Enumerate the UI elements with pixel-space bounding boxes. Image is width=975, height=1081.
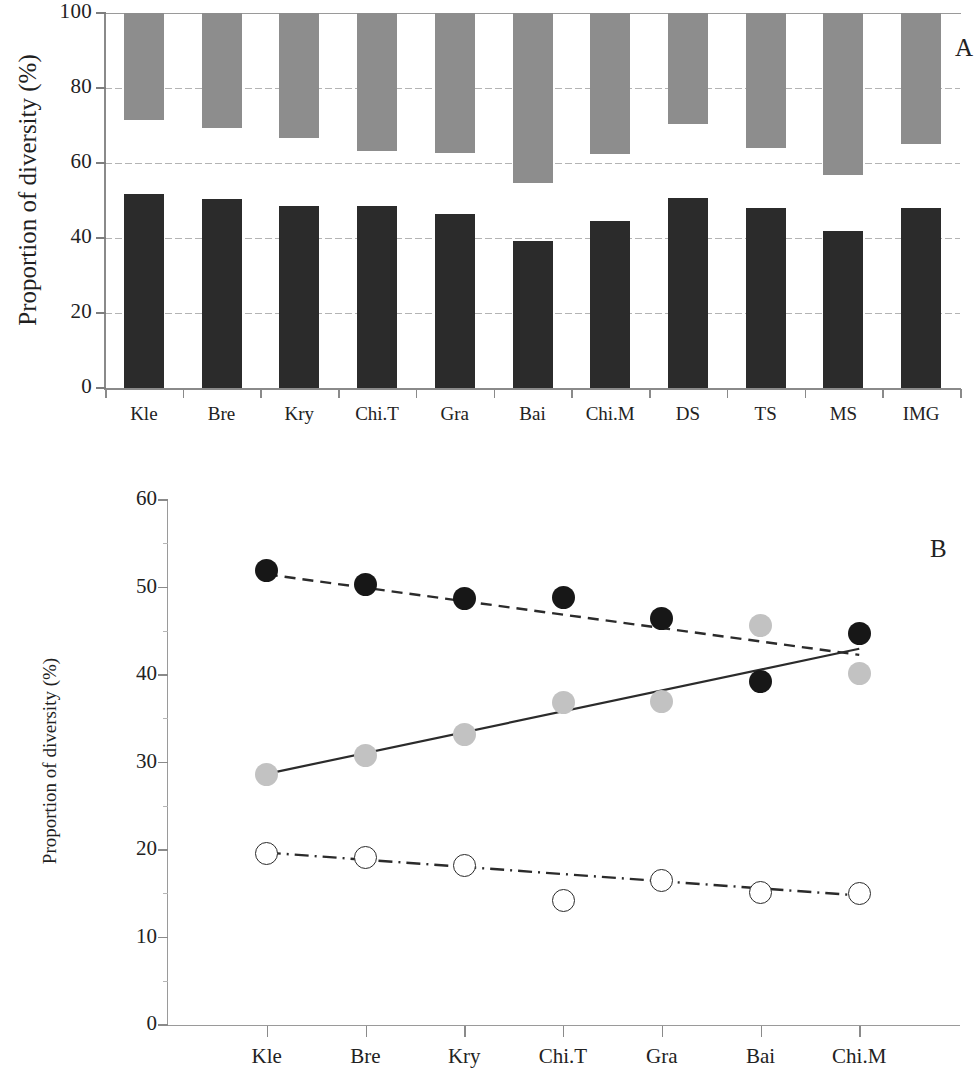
panel-b-data-point [552,889,575,912]
panel-b-y-minor-tick [163,631,168,632]
panel-b-y-axis-title: Proportion of diversity (%) [39,561,61,961]
panel-b-data-point [749,614,772,637]
panel-a-category-label: Chi.M [571,403,649,425]
panel-b-data-point [749,670,772,693]
panel-b-data-point [848,882,871,905]
panel-a-y-axis-line [104,13,106,389]
panel-a-x-tick [649,389,651,398]
panel-a-category-label: Kry [260,403,338,425]
panel-b-data-point [552,691,575,714]
panel-b-y-minor-tick [163,806,168,807]
panel-b-x-tick [366,1026,367,1037]
panel-b-y-minor-tick [163,718,168,719]
panel-a-bar-dark [357,206,397,388]
panel-a-y-tick [96,87,106,89]
panel-b-data-point [453,587,476,610]
panel-a-y-tick-label: 0 [22,374,92,399]
panel-a-bar-dark [435,214,475,388]
panel-a-bar-light [513,13,553,183]
panel-a-y-tick-label: 20 [22,299,92,324]
panel-a-bar-dark [513,241,553,388]
panel-a-bar-chart: Proportion of diversity (%) 020406080100… [0,0,975,450]
panel-b-data-point [749,881,772,904]
panel-b-y-tick-label: 40 [97,661,157,686]
panel-b-data-point [552,586,575,609]
panel-b-y-tick [158,937,168,938]
panel-b-category-label: Kle [217,1044,316,1069]
panel-a-category-label: Bai [494,403,572,425]
panel-b-y-tick-label: 50 [97,574,157,599]
panel-b-y-minor-tick [163,893,168,894]
panel-a-category-label: IMG [882,403,960,425]
panel-b-y-tick-label: 20 [97,836,157,861]
panel-b-data-point [848,622,871,645]
panel-b-x-tick [662,1026,663,1037]
panel-b-data-point [848,662,871,685]
panel-b-category-label: Bai [711,1044,810,1069]
panel-a-x-tick [960,389,962,398]
panel-a-x-tick [805,389,807,398]
panel-a-x-tick [338,389,340,398]
panel-a-category-label: MS [805,403,883,425]
panel-a-category-label: Bre [183,403,261,425]
panel-a-category-label: DS [649,403,727,425]
panel-b-x-tick [464,1026,465,1037]
panel-b-y-tick [158,674,168,675]
panel-a-bar-light [124,13,164,120]
panel-a-x-tick [105,389,107,398]
panel-a-y-tick [96,12,106,14]
panel-b-data-point [255,559,278,582]
panel-a-x-axis-line [104,388,961,390]
panel-a-bar-light [823,13,863,175]
panel-a-y-tick [96,237,106,239]
panel-a-bar-dark [668,198,708,389]
panel-b-scatter-chart: Proportion of diversity (%) 010203040506… [0,450,975,1081]
panel-a-bar-dark [823,231,863,389]
panel-a-bar-light [668,13,708,124]
panel-a-bar-dark [590,221,630,388]
panel-b-y-tick-label: 10 [97,924,157,949]
panel-a-bar-dark [901,208,941,388]
panel-a-y-tick-label: 60 [22,149,92,174]
panel-b-category-label: Kry [415,1044,514,1069]
panel-a-x-tick [416,389,418,398]
panel-a-bar-dark [746,208,786,388]
panel-b-x-tick [563,1026,564,1037]
panel-b-y-tick [158,849,168,850]
panel-b-category-label: Chi.M [810,1044,909,1069]
panel-a-label: A [955,34,973,62]
panel-b-y-tick [158,587,168,588]
panel-a-bar-dark [202,199,242,388]
panel-b-data-point [453,723,476,746]
panel-a-bar-light [901,13,941,144]
panel-a-category-label: Gra [416,403,494,425]
panel-a-bar-light [279,13,319,138]
panel-b-x-tick [859,1026,860,1037]
panel-b-x-tick [761,1026,762,1037]
panel-a-bar-light [357,13,397,151]
panel-a-bar-light [202,13,242,128]
panel-a-y-tick-label: 80 [22,74,92,99]
panel-b-category-label: Bre [316,1044,415,1069]
panel-b-data-point [354,573,377,596]
panel-b-data-point [354,846,377,869]
panel-b-data-point [650,607,673,630]
panel-b-category-label: Chi.T [514,1044,613,1069]
panel-b-data-point [453,854,476,877]
panel-a-x-tick [260,389,262,398]
panel-b-y-tick-label: 30 [97,749,157,774]
panel-a-category-label: TS [727,403,805,425]
panel-a-x-tick [571,389,573,398]
panel-b-x-tick [267,1026,268,1037]
panel-b-category-label: Gra [612,1044,711,1069]
panel-b-data-point [650,869,673,892]
panel-a-bar-light [746,13,786,148]
panel-a-bar-light [435,13,475,153]
panel-b-y-tick [158,762,168,763]
panel-b-data-point [354,744,377,767]
panel-a-y-tick [96,312,106,314]
panel-b-y-minor-tick [163,543,168,544]
panel-a-x-tick [183,389,185,398]
panel-a-x-tick [494,389,496,398]
panel-b-data-point [650,690,673,713]
